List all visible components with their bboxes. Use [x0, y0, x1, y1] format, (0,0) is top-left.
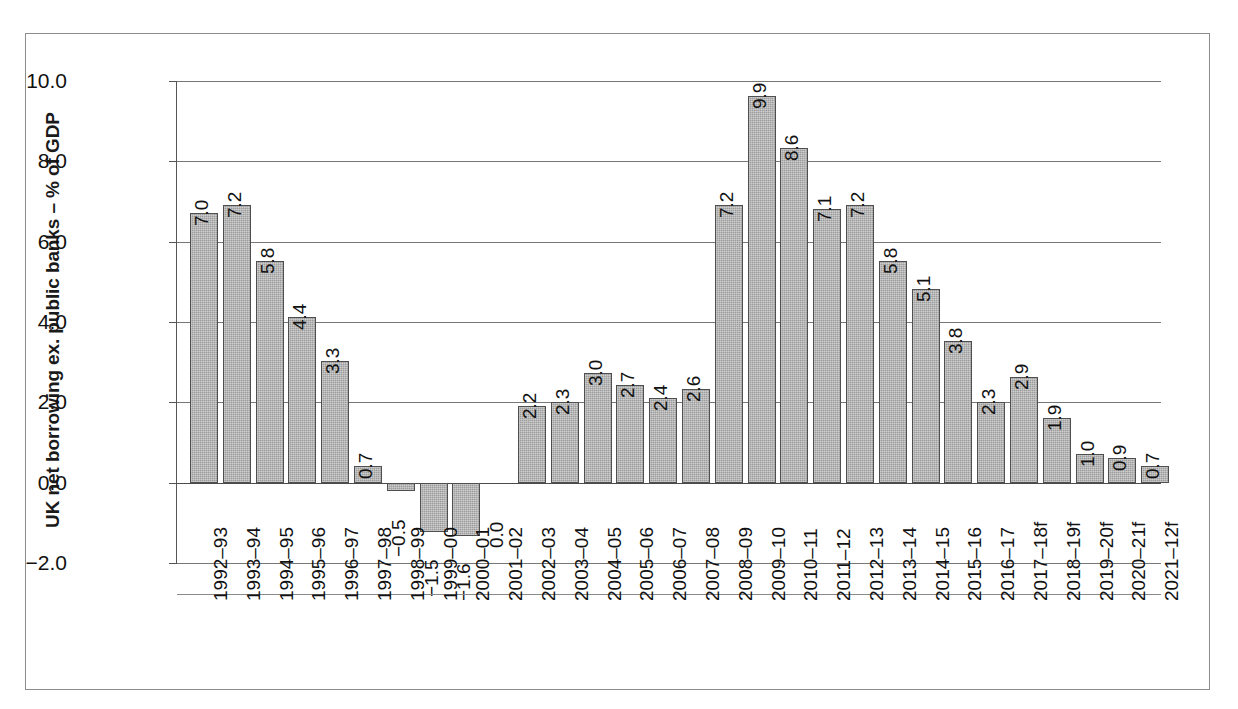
bar-value-label: 3.8	[946, 328, 965, 354]
x-axis-tick-label: 2008–09	[736, 527, 755, 601]
bar-value-label: 7.1	[815, 195, 834, 221]
x-axis-tick-label: 2001–02	[506, 527, 525, 601]
bar-value-label: 3.3	[323, 348, 342, 374]
x-axis-tick-label: 2003–04	[572, 527, 591, 601]
bar	[846, 205, 874, 483]
y-axis-tick-mark	[169, 483, 177, 484]
x-axis-tick-label: 2018–19f	[1064, 522, 1083, 601]
y-axis-tick-label: 10.0	[26, 70, 67, 91]
bar	[944, 341, 972, 482]
bar-value-label: 4.4	[290, 304, 309, 330]
x-axis-tick-label: 2016–17	[998, 527, 1017, 601]
y-axis-tick-mark	[169, 563, 177, 564]
x-axis-tick-label: 2019–20f	[1097, 522, 1116, 601]
bar	[420, 483, 448, 532]
bar-value-label: 2.3	[979, 388, 998, 414]
x-axis-tick-label: 1998–99	[408, 527, 427, 601]
bar-value-label: 3.0	[586, 360, 605, 386]
gridline	[177, 242, 1161, 243]
x-axis-tick-label: 2009–10	[769, 527, 788, 601]
x-axis-tick-label: 2004–05	[605, 527, 624, 601]
bar	[288, 317, 316, 482]
x-axis-tick-label: 2000–01	[473, 527, 492, 601]
bar-value-label: 5.8	[881, 248, 900, 274]
x-axis-tick-label: 2014–15	[933, 527, 952, 601]
bar-value-label: 7.2	[225, 191, 244, 217]
gridline	[177, 483, 1161, 484]
y-axis-tick-mark	[169, 81, 177, 82]
bar	[321, 361, 349, 482]
bar	[780, 148, 808, 482]
plot-area: 7.07.25.84.43.30.7−0.5−1.5−1.60.02.22.33…	[177, 81, 1161, 563]
bar-value-label: 2.9	[1012, 364, 1031, 390]
bar	[813, 209, 841, 483]
bar-value-label: 7.2	[717, 191, 736, 217]
bar	[387, 483, 415, 492]
x-axis-tick-label: 2005–06	[637, 527, 656, 601]
x-axis-tick-label: 1999–00	[441, 527, 460, 601]
bar	[879, 261, 907, 483]
x-axis-tick-label: 1997–98	[375, 527, 394, 601]
y-axis-tick-mark	[169, 242, 177, 243]
x-axis-tick-label: 2013–14	[900, 527, 919, 601]
bar	[616, 385, 644, 482]
bar	[584, 373, 612, 482]
y-axis-tick-label: 2.0	[38, 391, 67, 412]
bar	[1010, 377, 1038, 482]
bar-value-label: 1.0	[1078, 440, 1097, 466]
x-axis-tick-label: 1994–95	[277, 527, 296, 601]
bar-value-label: 7.0	[192, 199, 211, 225]
bar-value-label: 8.6	[782, 135, 801, 161]
bar-value-label: 1.9	[1045, 404, 1064, 430]
x-axis-tick-label: 2002–03	[539, 527, 558, 601]
bar	[223, 205, 251, 483]
x-axis-tick-label: 2012–13	[867, 527, 886, 601]
bar-value-label: 0.9	[1110, 444, 1129, 470]
x-axis-tick-label: 1995–96	[309, 527, 328, 601]
bar	[190, 213, 218, 483]
y-axis-tick-label: 6.0	[38, 231, 67, 252]
y-axis-tick-mark	[169, 322, 177, 323]
gridline	[177, 161, 1161, 162]
y-axis-tick-label: 0.0	[38, 472, 67, 493]
x-axis-tick-label: 2010–11	[801, 528, 820, 601]
bar	[256, 261, 284, 483]
bar	[715, 205, 743, 483]
y-axis-tick-label: 4.0	[38, 311, 67, 332]
bar-value-label: 2.3	[553, 388, 572, 414]
bar-value-label: 0.7	[356, 452, 375, 478]
bar-value-label: 2.7	[618, 372, 637, 398]
chart-figure: UK net borrowing ex. public banks – % of…	[0, 0, 1238, 709]
bar	[682, 389, 710, 482]
x-axis-tick-label: 2017–18f	[1031, 522, 1050, 601]
x-axis-tick-label: 2007–08	[703, 527, 722, 601]
x-axis-tick-label: 2011–12	[834, 528, 853, 601]
bar-value-label: 5.1	[914, 276, 933, 302]
y-axis-tick-mark	[169, 402, 177, 403]
x-axis-tick-label: 1996–97	[342, 527, 361, 601]
x-axis-tick-label: 2021–12f	[1162, 522, 1181, 601]
y-axis-tick-mark	[169, 161, 177, 162]
bar	[912, 289, 940, 483]
bar-value-label: 2.4	[651, 384, 670, 410]
y-axis-tick-label: 8.0	[38, 150, 67, 171]
bar-value-label: 2.6	[684, 376, 703, 402]
y-axis-tick-label: −2.0	[26, 552, 67, 573]
x-axis-tick-label: 1993–94	[244, 527, 263, 601]
bar-value-label: 5.8	[258, 248, 277, 274]
x-axis-tick-label: 2006–07	[670, 527, 689, 601]
bar	[748, 96, 776, 482]
x-axis-tick-label: 2020–21f	[1129, 522, 1148, 601]
gridline	[177, 322, 1161, 323]
bar-value-label: 2.2	[520, 392, 539, 418]
gridline	[177, 81, 1161, 82]
bar-value-label: 7.2	[848, 191, 867, 217]
x-axis-tick-label: 1992–93	[211, 527, 230, 601]
bar-value-label: 9.9	[750, 83, 769, 109]
x-axis-tick-label: 2015–16	[965, 527, 984, 601]
bar-value-label: 0.7	[1143, 452, 1162, 478]
